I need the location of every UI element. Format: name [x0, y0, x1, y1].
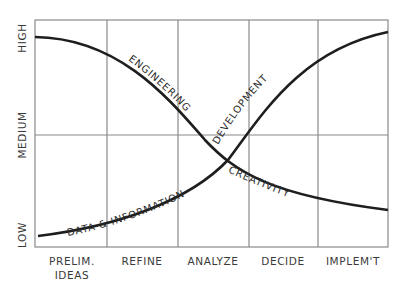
y-label-high: HIGH: [16, 23, 28, 52]
curve-data-development: [38, 32, 388, 236]
x-axis-labels: PRELIM. IDEAS REFINE ANALYZE DECIDE IMPL…: [49, 255, 380, 281]
curve-engineering-creativity: [35, 37, 388, 210]
x-label-decide: DECIDE: [261, 255, 304, 267]
chart: ENGINEERING DEVELOPMENT DATA & INFORMATI…: [0, 0, 410, 293]
x-label-prelim: PRELIM.: [49, 255, 95, 267]
label-data-information: DATA & INFORMATION: [66, 188, 186, 238]
x-label-analyze: ANALYZE: [187, 255, 238, 267]
label-engineering: ENGINEERING: [127, 53, 193, 114]
curve-labels: ENGINEERING DEVELOPMENT DATA & INFORMATI…: [66, 53, 292, 238]
x-label-ideas: IDEAS: [55, 269, 90, 281]
label-creativity: CREATIVITY: [227, 164, 292, 199]
y-label-medium: MEDIUM: [16, 111, 28, 158]
curves: [35, 32, 388, 236]
x-label-implement: IMPLEM'T: [326, 255, 380, 267]
grid: [35, 20, 388, 247]
x-label-refine: REFINE: [121, 255, 162, 267]
y-axis-labels: HIGH MEDIUM LOW: [16, 23, 28, 248]
y-label-low: LOW: [16, 222, 28, 248]
plot-frame: [35, 20, 388, 247]
